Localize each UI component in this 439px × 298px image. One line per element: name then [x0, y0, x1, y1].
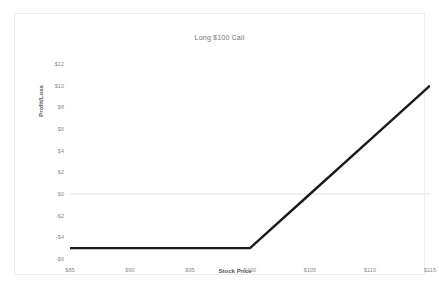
- x-axis-tick-label: $90: [110, 267, 150, 273]
- payoff-plot-svg: [70, 64, 430, 259]
- payoff-line: [70, 86, 430, 249]
- y-axis-tick-label: $0: [34, 191, 64, 197]
- x-axis-tick-label: $85: [50, 267, 90, 273]
- y-axis-tick-label: $10: [34, 83, 64, 89]
- y-axis-tick-label: -$2: [34, 213, 64, 219]
- y-axis-tick-label: $4: [34, 148, 64, 154]
- x-axis-tick-label: $110: [350, 267, 390, 273]
- y-axis-tick-label: $8: [34, 104, 64, 110]
- data-series: [70, 86, 430, 249]
- x-axis-tick-label: $115: [410, 267, 439, 273]
- x-axis-tick-label: $100: [230, 267, 270, 273]
- chart-title: Long $100 Call: [15, 33, 424, 42]
- x-axis-tick-label: $105: [290, 267, 330, 273]
- y-axis-title: Profit/Loss: [37, 71, 44, 131]
- chart-frame: Long $100 Call Profit/Loss Stock Price $…: [14, 13, 425, 275]
- y-axis-tick-label: $12: [34, 61, 64, 67]
- y-axis-tick-label: -$4: [34, 234, 64, 240]
- plot-area: [70, 64, 430, 259]
- y-axis-tick-label: $2: [34, 169, 64, 175]
- y-axis-tick-label: $6: [34, 126, 64, 132]
- y-axis-tick-label: -$6: [34, 256, 64, 262]
- x-axis-tick-label: $95: [170, 267, 210, 273]
